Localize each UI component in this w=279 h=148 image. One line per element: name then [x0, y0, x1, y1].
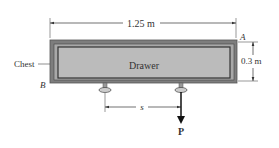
- chest-label: Chest: [14, 59, 35, 69]
- distance-s-label: s: [140, 102, 144, 112]
- left-handle-icon: [99, 83, 111, 93]
- right-handle-icon: [175, 83, 187, 93]
- drawer-chest-diagram: 1.25 m Drawer A B Chest 0.3 m s P: [0, 0, 279, 148]
- drawer-label: Drawer: [129, 60, 160, 71]
- height-dimension-label: 0.3 m: [241, 56, 262, 66]
- width-dimension-label: 1.25 m: [127, 18, 155, 29]
- point-a-label: A: [239, 32, 246, 42]
- force-p-label: P: [178, 126, 184, 137]
- force-p-arrow-icon: [177, 92, 185, 124]
- point-b-label: B: [40, 80, 46, 90]
